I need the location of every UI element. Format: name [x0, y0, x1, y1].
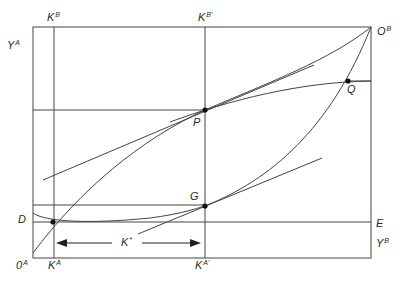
isoquant-lower — [33, 206, 205, 221]
tangent-line-g — [138, 158, 322, 234]
point-p — [202, 107, 207, 112]
kstar-arrow-right-head — [190, 239, 201, 247]
label-kbprime: KB' — [198, 12, 212, 23]
edgeworth-box-diagram — [0, 0, 405, 284]
point-d-intersection — [50, 219, 55, 224]
label-ya: YA — [7, 40, 20, 51]
point-g — [202, 203, 207, 208]
label-kb: KB — [47, 12, 60, 23]
contract-curve — [33, 27, 371, 253]
label-ob: OB — [377, 26, 391, 37]
isoquant-steep — [205, 27, 371, 206]
label-oa: 0A — [16, 260, 28, 271]
label-p: P — [193, 117, 200, 128]
kstar-arrow-left-head — [56, 239, 67, 247]
label-yb: YB — [376, 238, 389, 249]
label-g: G — [190, 191, 199, 202]
label-kaprime: KA' — [195, 260, 209, 271]
label-ka: KA — [48, 260, 61, 271]
box-frame — [33, 27, 371, 258]
label-q: Q — [347, 84, 356, 95]
label-d: D — [18, 214, 26, 225]
label-kstar: K* — [121, 237, 132, 248]
tangent-line-p — [43, 65, 314, 180]
label-e: E — [376, 218, 383, 229]
